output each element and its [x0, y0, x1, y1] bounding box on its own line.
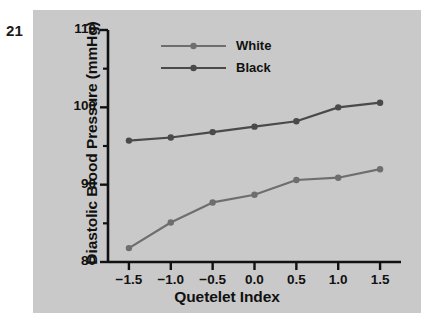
x-tick-label: 1.0 [315, 272, 361, 287]
y-tick-label: 90 [56, 176, 96, 191]
data-point-black-6 [377, 99, 383, 105]
data-point-white-4 [293, 177, 299, 183]
x-tick-label: −1.0 [148, 272, 194, 287]
x-tick-label: −1.5 [106, 272, 152, 287]
y-tick-label: 100 [56, 98, 96, 113]
data-point-white-6 [377, 166, 383, 172]
legend-swatch-dot-black [190, 65, 196, 71]
legend-swatch-dot-white [190, 43, 196, 49]
data-point-black-1 [168, 134, 174, 140]
x-tick-label: 1.5 [357, 272, 403, 287]
series-line-black [129, 103, 380, 141]
data-point-white-1 [168, 219, 174, 225]
data-series [126, 99, 384, 251]
figure-number: 21 [6, 22, 23, 39]
x-tick-label: 0.5 [273, 272, 319, 287]
data-point-white-5 [335, 175, 341, 181]
data-point-black-4 [293, 118, 299, 124]
data-point-white-2 [209, 199, 215, 205]
y-tick-label: 80 [56, 253, 96, 268]
legend-label-black: Black [236, 60, 271, 75]
series-line-white [129, 169, 380, 248]
data-point-black-0 [126, 137, 132, 143]
data-point-white-3 [251, 192, 257, 198]
legend [161, 43, 226, 71]
x-tick-label: −0.5 [190, 272, 236, 287]
data-point-white-0 [126, 245, 132, 251]
y-tick-label: 110 [56, 21, 96, 36]
chart-panel: Diastolic Blood Pressure (mmHg) Quetelet… [33, 10, 421, 313]
data-point-black-2 [209, 129, 215, 135]
legend-label-white: White [236, 38, 271, 53]
x-tick-label: 0.0 [232, 272, 278, 287]
data-point-black-5 [335, 104, 341, 110]
data-point-black-3 [251, 123, 257, 129]
